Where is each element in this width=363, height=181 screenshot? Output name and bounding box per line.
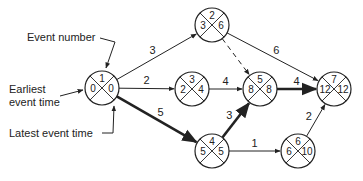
event-node: 588 bbox=[243, 72, 277, 106]
earliest-event-time: 2 bbox=[180, 84, 186, 95]
event-number: 4 bbox=[209, 136, 215, 147]
latest-event-time-label: Latest event time bbox=[9, 127, 93, 139]
event-number: 7 bbox=[331, 74, 337, 85]
activity-duration: 6 bbox=[273, 44, 279, 56]
activity-duration: 2 bbox=[306, 110, 312, 122]
event-number-label: Event number bbox=[27, 31, 95, 43]
earliest-event-time: 12 bbox=[319, 84, 331, 95]
activity-arrows: 325643142 bbox=[117, 33, 325, 151]
activity-duration: 3 bbox=[226, 109, 232, 121]
activity-duration: 2 bbox=[144, 74, 150, 86]
earliest-event-time: 3 bbox=[200, 20, 206, 31]
event-number: 5 bbox=[257, 74, 263, 85]
earliest-event-time: 5 bbox=[200, 146, 206, 157]
activity-duration: 5 bbox=[157, 106, 163, 118]
latest-event-time: 5 bbox=[218, 146, 224, 157]
activity-arrow bbox=[117, 34, 197, 80]
event-number: 1 bbox=[99, 73, 105, 84]
network-diagram: 325643142 100236324455588661071212 bbox=[0, 0, 363, 181]
earliest-event-time: 8 bbox=[248, 84, 254, 95]
latest-event-time: 8 bbox=[266, 84, 272, 95]
event-number: 6 bbox=[295, 136, 301, 147]
event-number-pointer bbox=[100, 38, 115, 68]
earliest-event-time: 0 bbox=[90, 83, 96, 94]
latest-time-pointer bbox=[102, 106, 114, 133]
latest-event-time: 6 bbox=[218, 20, 224, 31]
latest-event-time: 4 bbox=[198, 84, 204, 95]
earliest-event-time-label-line2: event time bbox=[9, 96, 60, 108]
activity-duration: 3 bbox=[150, 44, 156, 56]
latest-event-time: 12 bbox=[337, 84, 349, 95]
event-node: 324 bbox=[175, 72, 209, 106]
event-number: 2 bbox=[209, 10, 215, 21]
latest-event-time: 10 bbox=[301, 146, 313, 157]
latest-event-time: 0 bbox=[108, 83, 114, 94]
activity-arrow bbox=[227, 33, 318, 81]
activity-duration: 1 bbox=[251, 137, 257, 149]
event-node: 6610 bbox=[281, 134, 315, 168]
event-node: 100 bbox=[85, 71, 119, 105]
earliest-event-time: 6 bbox=[286, 146, 292, 157]
activity-duration: 4 bbox=[293, 75, 299, 87]
event-node: 455 bbox=[195, 134, 229, 168]
earliest-time-pointer bbox=[60, 90, 83, 96]
earliest-event-time-label-line1: Earliest bbox=[9, 83, 46, 95]
activity-arrow bbox=[119, 88, 174, 89]
event-node: 71212 bbox=[317, 72, 351, 106]
event-number: 3 bbox=[189, 74, 195, 85]
event-node: 236 bbox=[195, 8, 229, 42]
activity-arrow bbox=[222, 39, 249, 75]
activity-duration: 4 bbox=[222, 75, 228, 87]
